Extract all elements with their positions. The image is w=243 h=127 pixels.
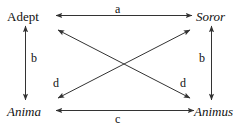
edge-label-b-right: b xyxy=(199,52,205,64)
edge-label-b-left: b xyxy=(31,52,37,64)
edge-label-d-right: d xyxy=(180,77,186,89)
edge-label-a: a xyxy=(115,3,120,15)
node-label-adept: Adept xyxy=(7,10,39,23)
edge-label-c: c xyxy=(115,113,120,125)
node-label-anima: Anima xyxy=(7,105,41,118)
node-label-animus: Animus xyxy=(194,105,233,118)
diagram-canvas: Adept Soror Anima Animus a b b c d d xyxy=(0,0,243,127)
edge-label-d-left: d xyxy=(53,77,59,89)
node-label-soror: Soror xyxy=(196,10,225,23)
